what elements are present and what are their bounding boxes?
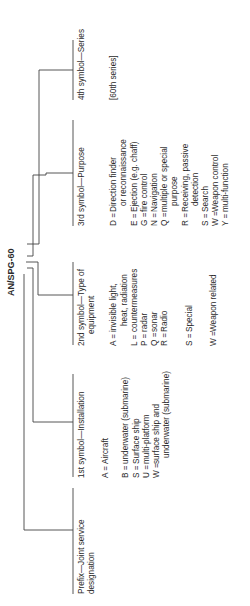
list-item: G =fire control — [140, 139, 150, 226]
list-item: N =Navigation — [150, 139, 160, 226]
list-item: detection — [191, 139, 201, 226]
list-item: W =surface ship and — [152, 371, 162, 478]
list-item: A =invisible light, — [109, 269, 119, 346]
equipment-type-heading: 2nd symbol—Type of — [77, 269, 87, 346]
purpose-heading: 3rd symbol—Purpose — [77, 139, 87, 226]
series-column: 4th symbol—Series [60th series] — [77, 29, 119, 100]
list-item: S =Special — [185, 269, 195, 346]
list-item: D =Direction finder — [109, 139, 119, 226]
list-item: purpose — [170, 139, 180, 226]
designation-diagram: AN/SPG-60 Prefix—Joint service designati… — [0, 0, 250, 606]
equipment-type-column: 2nd symbol—Type of equipment A =invisibl… — [77, 269, 219, 346]
list-item: L =countermeasures — [130, 269, 140, 346]
list-item: R =Radio — [160, 269, 170, 346]
list-item: U =multi-platform — [142, 371, 152, 478]
list-item: [60th series] — [109, 29, 119, 100]
list-item: Q =multiple or special — [160, 139, 170, 226]
list-item: R =Receiving, passive — [181, 139, 191, 226]
list-item: Q =sonar — [150, 269, 160, 346]
prefix-heading: Prefix—Joint service designation — [77, 519, 97, 594]
list-item: A =Aircraft — [101, 371, 111, 478]
purpose-column: 3rd symbol—Purpose D =Direction finder o… — [77, 139, 232, 226]
list-item: underwater (submarine) — [162, 371, 172, 478]
list-item: W =Weapon control — [211, 139, 221, 226]
list-item: E =Ejection (e.g. chaff) — [130, 139, 140, 226]
list-item: heat, radiation — [120, 269, 130, 346]
designation-title: AN/SPG-60 — [6, 248, 16, 296]
list-item: S =Search — [201, 139, 211, 226]
list-item: or reconnaissance — [119, 139, 129, 226]
installation-column: 1st symbol—Installation A =Aircraft B =u… — [77, 371, 172, 478]
series-heading: 4th symbol—Series — [77, 29, 87, 100]
list-item: B =underwater (submarine) — [121, 371, 131, 478]
list-item: S =Surface ship — [132, 371, 142, 478]
list-item: P =radar — [140, 269, 150, 346]
list-item: Y =multi-function — [221, 139, 231, 226]
installation-heading: 1st symbol—Installation — [77, 371, 87, 478]
list-item: W =Weapon related — [209, 269, 219, 346]
